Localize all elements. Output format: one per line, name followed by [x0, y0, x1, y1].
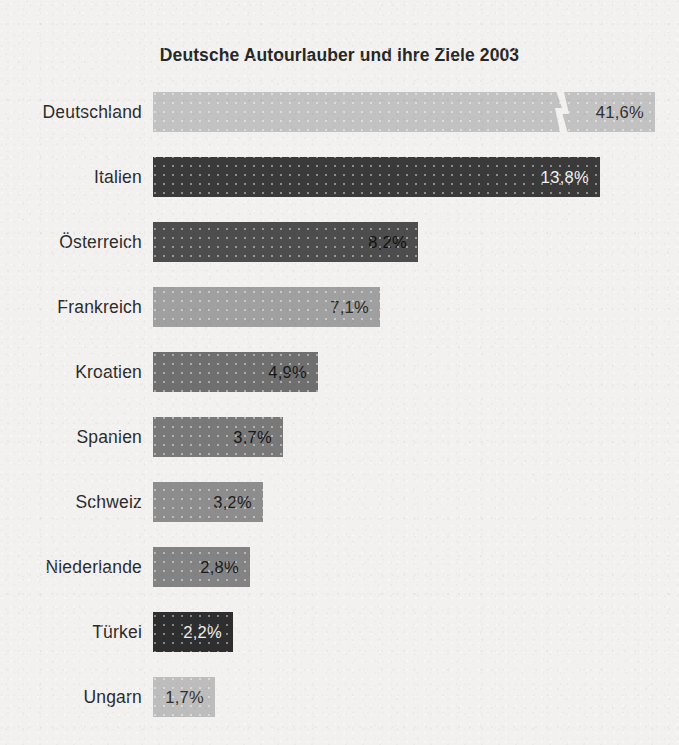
- bar-value-label: 2,8%: [200, 558, 239, 577]
- bar-category-label: Schweiz: [0, 479, 142, 525]
- bar-category-label: Italien: [0, 154, 142, 200]
- bar-track: 3,7%: [153, 417, 283, 457]
- bar-fill[interactable]: 7,1%: [153, 287, 380, 327]
- bar-fill[interactable]: 8,2%: [153, 222, 418, 262]
- bar-row: Frankreich7,1%: [0, 284, 679, 330]
- bar-row: Türkei2,2%: [0, 609, 679, 655]
- bar-track: 41,6%: [153, 92, 655, 132]
- bar-value-label: 3,2%: [213, 493, 252, 512]
- bar-row: Schweiz3,2%: [0, 479, 679, 525]
- bar-value-label: 4,9%: [268, 363, 307, 382]
- bar-track: 2,8%: [153, 547, 250, 587]
- bar-row: Österreich8,2%: [0, 219, 679, 265]
- bar-category-label: Ungarn: [0, 674, 142, 720]
- bar-category-label: Kroatien: [0, 349, 142, 395]
- bar-category-label: Österreich: [0, 219, 142, 265]
- bar-fill[interactable]: 3,2%: [153, 482, 263, 522]
- bar-category-label: Niederlande: [0, 544, 142, 590]
- bar-row: Deutschland41,6%: [0, 89, 679, 135]
- bar-fill[interactable]: 2,2%: [153, 612, 233, 652]
- bar-track: 7,1%: [153, 287, 380, 327]
- bar-track: 3,2%: [153, 482, 263, 522]
- bar-fill[interactable]: 13,8%: [153, 157, 600, 197]
- bar-row: Kroatien4,9%: [0, 349, 679, 395]
- bar-fill[interactable]: 4,9%: [153, 352, 318, 392]
- bar-value-label: 7,1%: [330, 298, 369, 317]
- bar-track: 2,2%: [153, 612, 233, 652]
- bar-category-label: Deutschland: [0, 89, 142, 135]
- bar-row: Spanien3,7%: [0, 414, 679, 460]
- bar-track: 13,8%: [153, 157, 600, 197]
- bar-value-label: 8,2%: [368, 233, 407, 252]
- bar-chart-plot-area: Deutschland41,6%Italien13,8%Österreich8,…: [0, 0, 679, 745]
- bar-track: 8,2%: [153, 222, 418, 262]
- bar-value-label: 1,7%: [165, 688, 204, 707]
- bar-value-label: 2,2%: [183, 623, 222, 642]
- bar-track: 4,9%: [153, 352, 318, 392]
- bar-row: Niederlande2,8%: [0, 544, 679, 590]
- bar-value-label: 41,6%: [596, 103, 644, 122]
- bar-value-label: 13,8%: [541, 168, 589, 187]
- bar-fill[interactable]: 41,6%: [153, 92, 655, 132]
- bar-fill[interactable]: 2,8%: [153, 547, 250, 587]
- bar-category-label: Spanien: [0, 414, 142, 460]
- bar-category-label: Frankreich: [0, 284, 142, 330]
- bar-row: Ungarn1,7%: [0, 674, 679, 720]
- bar-row: Italien13,8%: [0, 154, 679, 200]
- bar-category-label: Türkei: [0, 609, 142, 655]
- bar-fill[interactable]: 1,7%: [153, 677, 215, 717]
- bar-fill[interactable]: 3,7%: [153, 417, 283, 457]
- bar-value-label: 3,7%: [233, 428, 272, 447]
- bar-track: 1,7%: [153, 677, 215, 717]
